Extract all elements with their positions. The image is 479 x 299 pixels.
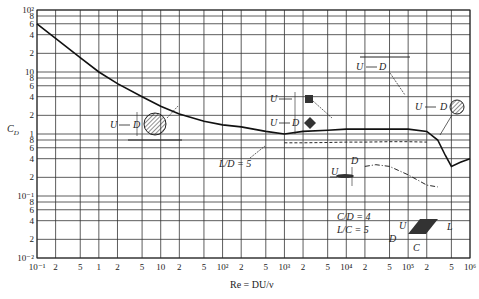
label-cd4: C/D = 4	[337, 211, 370, 222]
x-tick-label: 5	[202, 262, 207, 272]
x-tick-label: 5	[140, 262, 145, 272]
y-tick-label: 2	[30, 234, 35, 244]
y-tick-label: 4	[30, 216, 35, 226]
svg-text:C: C	[413, 242, 420, 253]
label-lc5: L/C = 5	[336, 224, 369, 235]
x-tick-label: 2	[363, 262, 368, 272]
svg-text:D: D	[291, 117, 300, 128]
svg-text:D: D	[378, 61, 387, 72]
svg-text:D: D	[439, 101, 448, 112]
y-tick-label: 6	[30, 81, 35, 91]
x-tick-label: 2	[177, 262, 182, 272]
x-tick-label: 5	[449, 262, 454, 272]
x-tick-label: 5	[387, 262, 392, 272]
x-tick-label: 10	[156, 262, 166, 272]
svg-text:U: U	[331, 166, 339, 177]
streamlined-body-icon	[336, 174, 354, 178]
x-tick-label: 5	[325, 262, 330, 272]
label-ld5: L/D = 5	[218, 158, 251, 169]
x-tick-label: 2	[425, 262, 430, 272]
y-axis-title: CD	[7, 123, 19, 137]
svg-text:U: U	[270, 117, 278, 128]
svg-text:U: U	[415, 101, 423, 112]
drag-coefficient-chart: 10⁻¹25125102510²2510³2510⁴2510⁵2510⁶10²8…	[0, 0, 479, 299]
diamond-cylinder-icon	[304, 117, 316, 129]
x-axis-title: Re = DU/ν	[230, 279, 274, 290]
y-tick-label: 10⁻²	[17, 253, 34, 263]
svg-text:L: L	[446, 221, 453, 232]
y-tick-label: 2	[30, 172, 35, 182]
x-tick-label: 2	[53, 262, 58, 272]
y-tick-label: 6	[30, 143, 35, 153]
y-tick-label: 4	[30, 30, 35, 40]
x-tick-label: 10⁻¹	[29, 262, 46, 272]
cylinder-right-icon	[450, 100, 464, 114]
svg-text:U: U	[270, 93, 278, 104]
inclined-plate-icon	[408, 219, 438, 234]
square-cylinder-icon	[305, 95, 313, 103]
x-tick-label: 5	[264, 262, 269, 272]
axis-ticks: 10⁻¹25125102510²2510³2510⁴2510⁵2510⁶10²8…	[17, 5, 476, 272]
series-line	[284, 142, 426, 143]
x-tick-label: 2	[239, 262, 244, 272]
series-line	[37, 24, 470, 167]
x-tick-label: 10³	[279, 262, 291, 272]
svg-text:D: D	[350, 155, 359, 166]
svg-text:D: D	[388, 233, 397, 244]
cylinder-icon	[144, 113, 166, 135]
label-D: D	[132, 119, 141, 130]
label-U: U	[110, 119, 118, 130]
svg-text:U: U	[399, 220, 407, 231]
x-tick-label: 2	[301, 262, 306, 272]
x-tick-label: 10⁵	[402, 262, 414, 272]
x-tick-label: 10⁴	[340, 262, 352, 272]
y-tick-label: 6	[30, 19, 35, 29]
data-series	[37, 24, 470, 187]
x-tick-label: 1	[97, 262, 102, 272]
x-tick-label: 2	[115, 262, 120, 272]
y-tick-label: 2	[30, 110, 35, 120]
x-tick-label: 5	[78, 262, 83, 272]
y-tick-label: 4	[30, 92, 35, 102]
svg-text:U: U	[356, 61, 364, 72]
y-tick-label: 2	[30, 48, 35, 58]
x-tick-label: 10⁶	[464, 262, 476, 272]
y-tick-label: 6	[30, 205, 35, 215]
y-tick-label: 4	[30, 154, 35, 164]
annotations: U D U U D U D U D L/D = 5 U D	[110, 57, 464, 253]
x-tick-label: 10²	[217, 262, 229, 272]
